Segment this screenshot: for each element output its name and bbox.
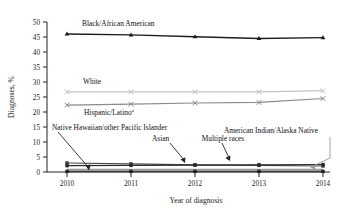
marker-square	[257, 163, 260, 166]
y-tick-label-10: 10	[33, 139, 41, 147]
series-line-native-hawaiian-pacific-islander	[65, 170, 324, 173]
y-tick-marks	[43, 22, 47, 172]
marker-square	[65, 164, 68, 167]
series-label-asian: Asian	[152, 134, 170, 143]
series-label-black-african-american: Black/African American	[82, 19, 155, 28]
leader-american-indian	[313, 137, 330, 166]
leader-arrow-asian	[181, 157, 186, 163]
y-tick-label-45: 45	[33, 34, 41, 42]
y-tick-label-5: 5	[36, 154, 40, 162]
y-tick-label-35: 35	[33, 64, 41, 72]
marker-square	[65, 170, 68, 173]
chart-figure: 50 45 40 35 30 25 20 15 10 5 0 2010 2011…	[0, 0, 345, 217]
marker-square	[321, 163, 324, 166]
y-axis-title: Diagnoses, %	[7, 75, 16, 117]
series-line-black-african-american	[65, 32, 326, 40]
series-label-multiple-races: Multiple races	[202, 134, 245, 143]
x-tick-label-2010: 2010	[60, 180, 75, 188]
marker-square	[193, 163, 196, 166]
x-tick-label-2011: 2011	[124, 180, 139, 188]
line-chart-canvas: 50 45 40 35 30 25 20 15 10 5 0 2010 2011…	[0, 0, 345, 217]
y-tick-label-0: 0	[36, 169, 40, 177]
marker-square	[129, 164, 132, 167]
leader-multiple-races	[222, 143, 229, 158]
series-label-white: White	[83, 77, 102, 86]
leader-asian	[170, 143, 184, 160]
y-tick-label-40: 40	[33, 49, 41, 57]
series-label-hispanic-latino: Hispanic/Latinoa	[84, 108, 135, 117]
series-label-american-indian-alaska-native: American Indian/Alaska Native	[224, 126, 319, 135]
series-label-native-hawaiian-pacific-islander: Native Hawaiian/other Pacific Islander	[52, 123, 168, 132]
series-line-hispanic-latino	[65, 96, 326, 107]
x-tick-label-2014: 2014	[316, 180, 331, 188]
marker-square	[129, 170, 132, 173]
marker-square	[257, 170, 260, 173]
axis-group	[47, 22, 330, 172]
y-tick-label-50: 50	[33, 19, 41, 27]
marker-square	[193, 170, 196, 173]
y-tick-label-30: 30	[33, 79, 41, 87]
y-tick-label-15: 15	[33, 124, 41, 132]
x-axis-title: Year of diagnosis	[170, 196, 223, 205]
marker-square	[321, 170, 324, 173]
series-line-white	[65, 88, 326, 94]
y-tick-label-25: 25	[33, 94, 41, 102]
y-tick-label-20: 20	[33, 109, 41, 117]
x-tick-label-2012: 2012	[188, 180, 203, 188]
x-tick-label-2013: 2013	[252, 180, 267, 188]
